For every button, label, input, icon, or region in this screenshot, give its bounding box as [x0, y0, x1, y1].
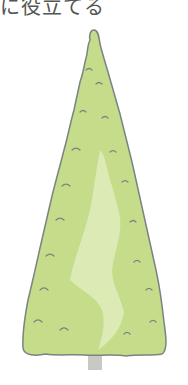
tree-illustration [0, 0, 188, 385]
tree-foliage [23, 30, 166, 356]
